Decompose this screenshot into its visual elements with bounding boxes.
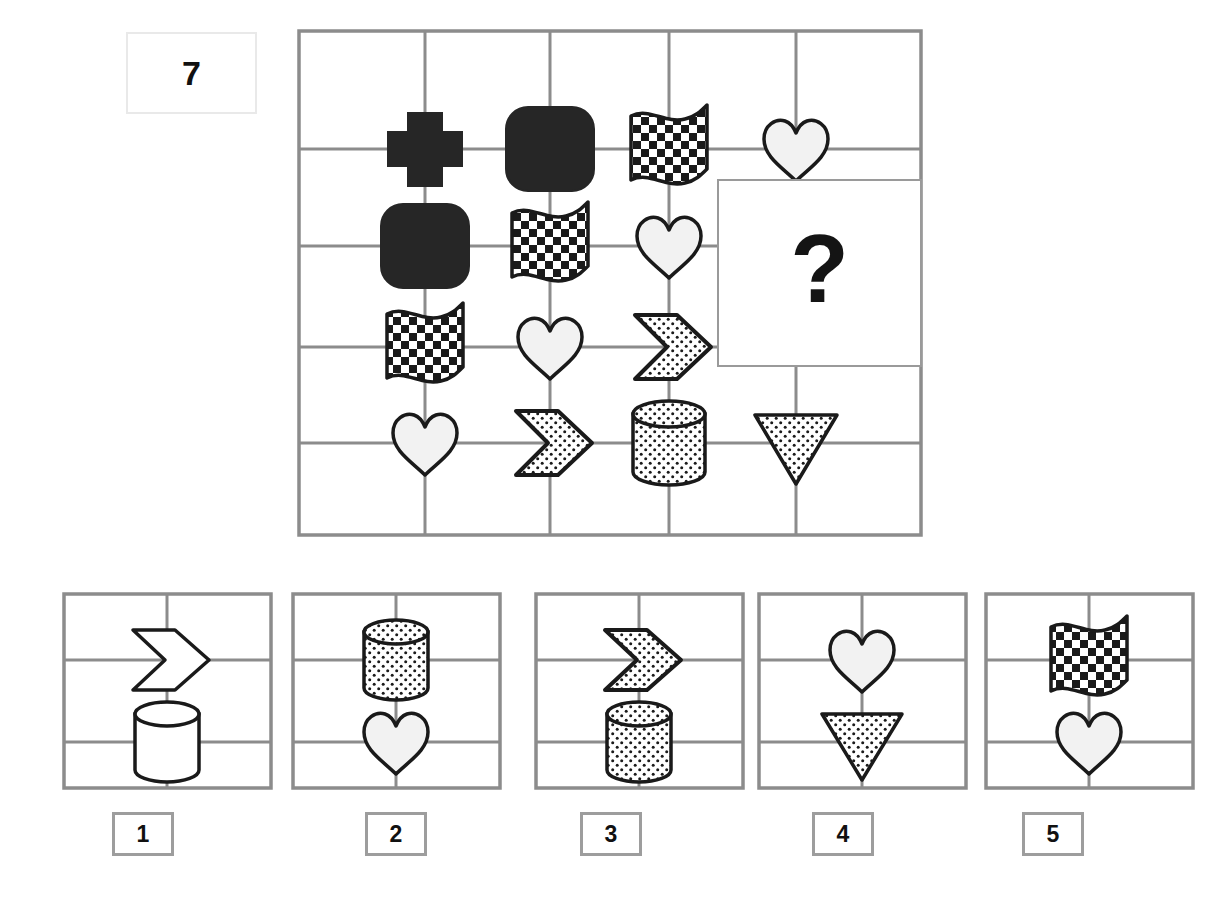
- answer-option-label-5-text: 5: [1047, 821, 1060, 848]
- shape-cylinder-dotted: [364, 620, 428, 700]
- shape-cylinder-dotted: [633, 401, 705, 485]
- answer-option-label-4[interactable]: 4: [812, 812, 874, 856]
- answer-option-label-2[interactable]: 2: [365, 812, 427, 856]
- answer-options-row: [0, 592, 1212, 802]
- item-number-box: 7: [126, 32, 257, 114]
- answer-option-label-3[interactable]: 3: [580, 812, 642, 856]
- answer-option-3-svg: [534, 592, 745, 790]
- answer-option-1-svg: [62, 592, 273, 790]
- question-mark: ?: [790, 221, 849, 317]
- answer-option-4-svg: [757, 592, 968, 790]
- answer-option-1[interactable]: [62, 592, 273, 790]
- answer-option-4[interactable]: [757, 592, 968, 790]
- answer-option-5-svg: [984, 592, 1195, 790]
- item-number: 7: [182, 54, 201, 93]
- answer-option-label-2-text: 2: [390, 821, 403, 848]
- answer-option-label-5[interactable]: 5: [1022, 812, 1084, 856]
- shape-cylinder-black: [381, 204, 469, 288]
- shape-cylinder-dotted: [607, 702, 671, 782]
- shape-cylinder-black: [506, 107, 594, 191]
- answer-option-label-1-text: 1: [137, 821, 150, 848]
- question-box: ?: [717, 179, 922, 367]
- answer-option-5[interactable]: [984, 592, 1195, 790]
- answer-option-2-svg: [291, 592, 502, 790]
- shape-cylinder-white: [135, 702, 199, 782]
- answer-option-3[interactable]: [534, 592, 745, 790]
- answer-option-label-4-text: 4: [837, 821, 850, 848]
- answer-option-2[interactable]: [291, 592, 502, 790]
- answer-option-label-3-text: 3: [605, 821, 618, 848]
- answer-option-label-1[interactable]: 1: [112, 812, 174, 856]
